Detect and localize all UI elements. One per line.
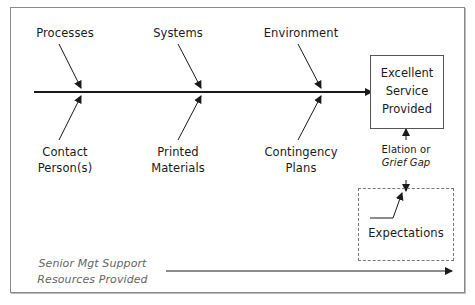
gap-label: Elation or Grief Gap — [376, 143, 436, 169]
effect-line2: Service — [371, 82, 443, 100]
cause-contact-persons-line2: Person(s) — [25, 160, 105, 176]
gap-line1: Elation or — [376, 143, 436, 156]
cause-printed-materials-line1: Printed — [138, 144, 218, 160]
gap-line2: Grief Gap — [376, 156, 436, 169]
foundation-label: Senior Mgt Support Resources Provided — [30, 256, 155, 288]
effect-box: Excellent Service Provided — [370, 55, 444, 129]
cause-contingency-plans-line1: Contingency — [256, 144, 346, 160]
effect-line1: Excellent — [371, 64, 443, 82]
cause-printed-materials-line2: Materials — [138, 160, 218, 176]
expectations-label: Expectations — [358, 225, 454, 241]
cause-contact-persons: Contact Person(s) — [25, 144, 105, 176]
foundation-line2: Resources Provided — [30, 272, 155, 288]
cause-contingency-plans: Contingency Plans — [256, 144, 346, 176]
cause-systems: Systems — [138, 25, 218, 41]
cause-contact-persons-line1: Contact — [25, 144, 105, 160]
cause-contingency-plans-line2: Plans — [256, 160, 346, 176]
effect-line3: Provided — [371, 100, 443, 118]
cause-printed-materials: Printed Materials — [138, 144, 218, 176]
cause-environment: Environment — [256, 25, 346, 41]
cause-processes: Processes — [25, 25, 105, 41]
foundation-line1: Senior Mgt Support — [30, 256, 155, 272]
